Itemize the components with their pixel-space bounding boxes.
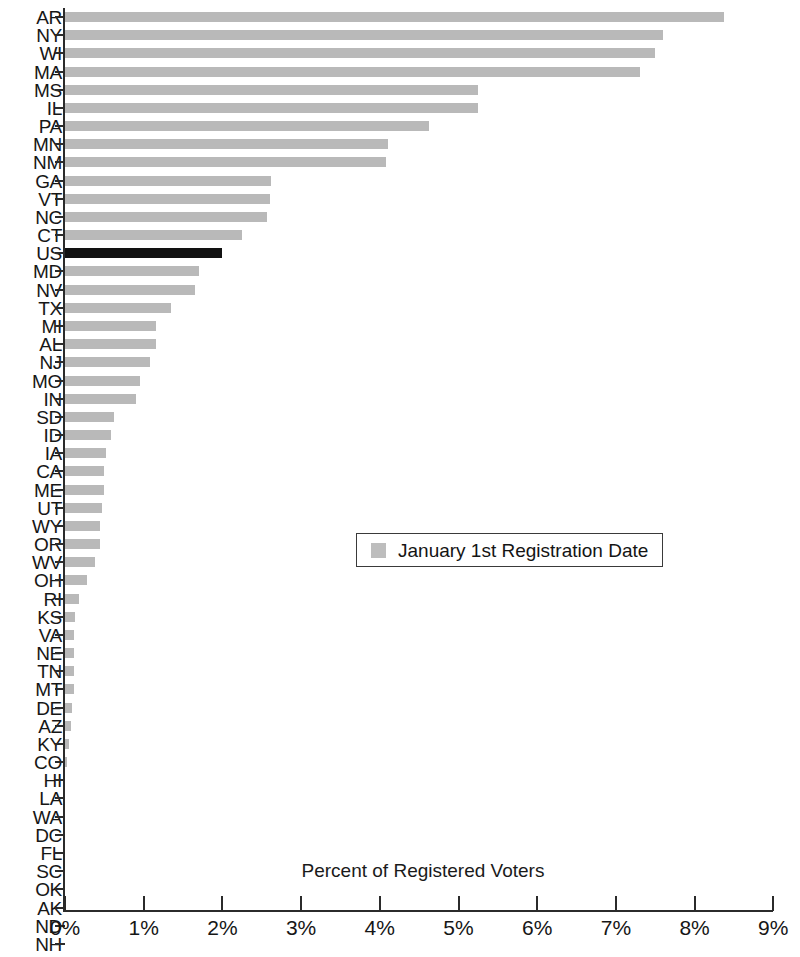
bar xyxy=(65,303,171,313)
bar-row: VT xyxy=(0,190,800,208)
chart-legend: January 1st Registration Date xyxy=(356,533,663,567)
bar-track xyxy=(65,285,195,295)
y-axis-tick xyxy=(55,616,65,618)
bar xyxy=(65,103,478,113)
bar-track xyxy=(65,539,100,549)
x-axis-tick-label: 7% xyxy=(601,916,631,940)
y-axis-tick xyxy=(55,579,65,581)
bar-row: US xyxy=(0,244,800,262)
y-axis-tick xyxy=(55,216,65,218)
bar-row: MT xyxy=(0,680,800,698)
bar-row: MI xyxy=(0,317,800,335)
bar-track xyxy=(65,684,74,694)
y-axis-tick xyxy=(55,252,65,254)
y-axis-tick xyxy=(55,489,65,491)
x-axis-tick xyxy=(379,896,381,911)
bar xyxy=(65,376,140,386)
y-axis-tick xyxy=(55,688,65,690)
bar-row: OH xyxy=(0,571,800,589)
bar-row: AZ xyxy=(0,717,800,735)
bar-track xyxy=(65,394,136,404)
x-axis-tick xyxy=(221,896,223,911)
bar-track xyxy=(65,448,106,458)
bar xyxy=(65,176,271,186)
bar xyxy=(65,285,195,295)
bar xyxy=(65,666,74,676)
x-axis-tick-label: 5% xyxy=(443,916,473,940)
bar-track xyxy=(65,412,114,422)
bar-row: HI xyxy=(0,771,800,789)
x-axis-tick xyxy=(615,896,617,911)
legend-entry-label: January 1st Registration Date xyxy=(398,541,648,560)
bar-row: UT xyxy=(0,499,800,517)
y-axis-tick xyxy=(55,852,65,854)
y-axis-tick xyxy=(55,816,65,818)
bar-row: NE xyxy=(0,644,800,662)
bar-track xyxy=(65,630,74,640)
bar-track xyxy=(65,594,79,604)
y-axis-tick xyxy=(55,743,65,745)
bar xyxy=(65,739,69,749)
bar-track xyxy=(65,321,156,331)
bar-row: DE xyxy=(0,699,800,717)
bar xyxy=(65,485,104,495)
bar-row: MD xyxy=(0,262,800,280)
bar-row: WA xyxy=(0,808,800,826)
x-axis-tick xyxy=(458,896,460,911)
bar-track xyxy=(65,485,104,495)
bar-track xyxy=(65,121,429,131)
y-axis-tick xyxy=(55,652,65,654)
x-axis-title: Percent of Registered Voters xyxy=(0,860,800,882)
y-axis-tick xyxy=(55,125,65,127)
bar-track xyxy=(65,466,104,476)
bar xyxy=(65,630,74,640)
bar xyxy=(65,230,242,240)
y-axis-tick xyxy=(55,543,65,545)
y-axis-tick xyxy=(55,416,65,418)
bar xyxy=(65,703,72,713)
bar-row: MS xyxy=(0,81,800,99)
y-axis-tick xyxy=(55,598,65,600)
y-axis-tick xyxy=(55,16,65,18)
x-axis-tick xyxy=(143,896,145,911)
bar xyxy=(65,85,478,95)
x-axis-tick-label: 0% xyxy=(50,916,80,940)
bar xyxy=(65,503,102,513)
bar xyxy=(65,67,640,77)
bar xyxy=(65,594,79,604)
bar-track xyxy=(65,85,478,95)
bar-row: PA xyxy=(0,117,800,135)
bar-track xyxy=(65,303,171,313)
bar-row: IA xyxy=(0,444,800,462)
bar-row: NV xyxy=(0,281,800,299)
y-axis-tick xyxy=(55,361,65,363)
y-axis-tick xyxy=(55,470,65,472)
bar-row: AR xyxy=(0,8,800,26)
bar-track xyxy=(65,648,74,658)
bar-row: MA xyxy=(0,63,800,81)
bar-track xyxy=(65,357,150,367)
bar-track xyxy=(65,176,271,186)
bar-track xyxy=(65,30,663,40)
bar-track xyxy=(65,248,222,258)
bar-track xyxy=(65,194,270,204)
y-axis-tick xyxy=(55,180,65,182)
bar xyxy=(65,266,199,276)
y-axis-tick xyxy=(55,761,65,763)
bar-track xyxy=(65,266,199,276)
bar xyxy=(65,48,655,58)
bar-track xyxy=(65,67,640,77)
bar-track xyxy=(65,739,69,749)
x-axis-tick-label: 1% xyxy=(129,916,159,940)
y-axis-tick xyxy=(55,507,65,509)
bar-chart-plot-area: ARNYWIMAMSILPAMNNMGAVTNCCTUSMDNVTXMIALNJ… xyxy=(0,0,800,957)
bar xyxy=(65,321,156,331)
y-axis-tick xyxy=(55,52,65,54)
y-axis-tick xyxy=(55,198,65,200)
bar-row: VA xyxy=(0,626,800,644)
y-axis-tick xyxy=(55,725,65,727)
y-axis-tick xyxy=(55,779,65,781)
bar-track xyxy=(65,721,71,731)
y-axis-tick xyxy=(55,434,65,436)
y-axis-tick xyxy=(55,834,65,836)
